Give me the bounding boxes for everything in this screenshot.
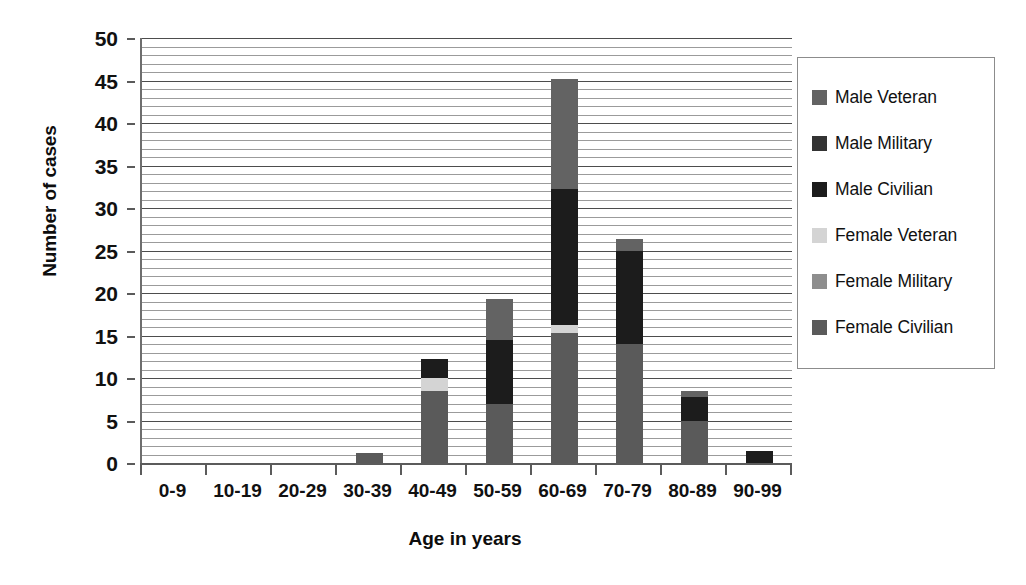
bar-segment[interactable] [616,344,643,463]
y-tick-label: 15 [95,325,118,346]
legend-label: Male Civilian [835,179,933,200]
x-tick-label: 50-59 [473,480,522,502]
legend-swatch-icon [812,320,827,335]
y-tick-label: 50 [95,28,118,49]
y-tick-mark [127,336,135,338]
y-tick-mark [127,166,135,168]
y-tick-label: 25 [95,240,118,261]
x-tick-mark [140,463,142,475]
bar-group[interactable] [356,38,383,463]
plot-area [140,38,792,463]
legend-item[interactable]: Female Veteran [798,212,994,258]
bar-group[interactable] [161,38,188,463]
bar-segment[interactable] [486,340,513,404]
y-tick-mark [127,463,135,465]
stacked-bar-chart: Number of cases 05101520253035404550 0-9… [0,0,1026,585]
bar-stack[interactable] [421,359,448,463]
x-tick-mark [270,463,272,475]
bar-segment[interactable] [681,421,708,464]
bar-stack[interactable] [681,391,708,463]
y-tick-label: 40 [95,113,118,134]
x-axis-title: Age in years [140,528,790,550]
bar-segment[interactable] [551,333,578,463]
x-tick-mark [790,463,792,475]
x-tick-label: 10-19 [213,480,262,502]
bar-segment[interactable] [486,404,513,464]
legend-label: Male Veteran [835,87,937,108]
legend-swatch-icon [812,274,827,289]
bar-group[interactable] [681,38,708,463]
legend-label: Female Veteran [835,225,957,246]
x-tick-mark [530,463,532,475]
legend-swatch-icon [812,228,827,243]
bar-segment[interactable] [421,391,448,463]
x-tick-label: 0-9 [159,480,186,502]
y-tick-mark [127,293,135,295]
y-tick-mark [127,421,135,423]
legend-item[interactable]: Male Veteran [798,74,994,120]
bar-segment[interactable] [616,239,643,250]
legend-swatch-icon [812,182,827,197]
legend-label: Female Civilian [835,317,953,338]
bar-group[interactable] [551,38,578,463]
x-tick-mark [465,463,467,475]
bar-segment[interactable] [746,451,773,463]
chart-legend: Male VeteranMale MilitaryMale CivilianFe… [797,57,995,369]
x-tick-label: 90-99 [733,480,782,502]
x-axis-ticks [140,463,792,477]
y-axis-tick-labels: 05101520253035404550 [55,0,130,585]
x-tick-label: 20-29 [278,480,327,502]
y-tick-mark [127,81,135,83]
bar-segment[interactable] [551,189,578,325]
x-tick-label: 70-79 [603,480,652,502]
bar-group[interactable] [226,38,253,463]
y-tick-mark [127,251,135,253]
y-tick-label: 5 [106,410,118,431]
x-tick-mark [205,463,207,475]
y-tick-label: 10 [95,368,118,389]
bar-segment[interactable] [421,359,448,378]
bar-stack[interactable] [746,451,773,463]
x-tick-label: 40-49 [408,480,457,502]
y-tick-mark [127,38,135,40]
legend-label: Female Military [835,271,952,292]
bar-segment[interactable] [356,453,383,463]
bar-segment[interactable] [681,397,708,421]
bar-group[interactable] [421,38,448,463]
x-tick-mark [660,463,662,475]
legend-swatch-icon [812,90,827,105]
legend-label: Male Military [835,133,932,154]
bar-stack[interactable] [486,299,513,463]
x-tick-mark [400,463,402,475]
bar-segment[interactable] [486,299,513,340]
y-tick-mark [127,123,135,125]
bar-stack[interactable] [551,79,578,463]
x-tick-mark [335,463,337,475]
bar-group[interactable] [746,38,773,463]
x-tick-label: 30-39 [343,480,392,502]
bar-segment[interactable] [616,251,643,345]
y-tick-mark [127,378,135,380]
bars-layer [142,38,792,463]
y-tick-label: 30 [95,198,118,219]
bar-stack[interactable] [356,453,383,463]
bar-group[interactable] [291,38,318,463]
y-tick-label: 35 [95,155,118,176]
y-tick-label: 20 [95,283,118,304]
x-tick-mark [725,463,727,475]
legend-swatch-icon [812,136,827,151]
y-tick-label: 45 [95,70,118,91]
bar-stack[interactable] [616,239,643,463]
legend-item[interactable]: Female Civilian [798,304,994,350]
bar-group[interactable] [486,38,513,463]
y-tick-label: 0 [106,453,118,474]
x-tick-label: 60-69 [538,480,587,502]
bar-segment[interactable] [421,378,448,391]
bar-segment[interactable] [551,325,578,333]
legend-item[interactable]: Male Civilian [798,166,994,212]
bar-group[interactable] [616,38,643,463]
legend-item[interactable]: Female Military [798,258,994,304]
bar-segment[interactable] [551,79,578,190]
x-tick-mark [595,463,597,475]
legend-item[interactable]: Male Military [798,120,994,166]
